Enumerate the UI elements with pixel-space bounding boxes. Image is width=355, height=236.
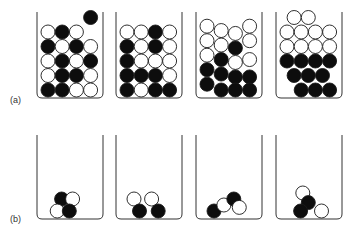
white-ball <box>243 34 257 48</box>
black-ball <box>200 77 214 91</box>
black-ball <box>228 70 242 84</box>
black-ball <box>214 83 228 97</box>
beaker-a-1 <box>37 11 103 99</box>
black-ball <box>294 204 308 218</box>
white-ball <box>120 25 134 39</box>
white-ball <box>200 34 214 48</box>
beaker-a-4 <box>276 11 342 99</box>
black-ball <box>214 67 228 81</box>
white-ball <box>84 40 98 54</box>
beaker-a-3 <box>196 12 262 98</box>
white-ball <box>69 83 83 97</box>
white-ball <box>294 25 308 39</box>
white-ball <box>41 25 55 39</box>
black-ball <box>148 25 162 39</box>
black-ball <box>55 25 69 39</box>
white-ball <box>41 54 55 68</box>
black-ball <box>120 40 134 54</box>
white-ball <box>280 40 294 54</box>
beaker-diagram <box>0 0 355 236</box>
white-ball <box>308 40 322 54</box>
white-ball <box>55 40 69 54</box>
black-ball <box>228 41 242 55</box>
black-ball <box>41 40 55 54</box>
white-ball <box>315 204 329 218</box>
white-ball <box>41 69 55 83</box>
black-ball <box>323 83 337 97</box>
white-ball <box>163 69 177 83</box>
white-ball <box>84 69 98 83</box>
black-ball <box>243 70 257 84</box>
white-ball <box>69 54 83 68</box>
white-ball <box>163 54 177 68</box>
black-ball <box>308 83 322 97</box>
white-ball <box>243 19 257 33</box>
black-ball <box>62 204 76 218</box>
white-ball <box>69 25 83 39</box>
black-ball <box>308 54 322 68</box>
beaker-b-2 <box>116 135 182 219</box>
white-ball <box>84 83 98 97</box>
black-ball <box>55 83 69 97</box>
white-ball <box>323 25 337 39</box>
white-ball <box>134 25 148 39</box>
white-ball <box>163 40 177 54</box>
black-ball <box>69 40 83 54</box>
white-ball <box>228 26 242 40</box>
white-ball <box>280 25 294 39</box>
black-ball <box>55 54 69 68</box>
black-ball <box>280 54 294 68</box>
white-ball <box>232 200 246 214</box>
black-ball <box>148 83 162 97</box>
beaker-a-2 <box>116 12 182 98</box>
black-ball <box>134 69 148 83</box>
black-ball <box>120 54 134 68</box>
white-ball <box>200 19 214 33</box>
white-ball <box>301 11 315 25</box>
white-ball <box>287 11 301 25</box>
black-ball <box>214 53 228 67</box>
beaker-outline <box>116 135 182 219</box>
black-ball <box>163 83 177 97</box>
white-ball <box>308 25 322 39</box>
black-ball <box>120 83 134 97</box>
black-ball <box>69 69 83 83</box>
white-ball <box>243 53 257 67</box>
black-ball <box>294 83 308 97</box>
black-ball <box>294 54 308 68</box>
black-ball <box>287 69 301 83</box>
black-ball <box>228 83 242 97</box>
black-ball <box>120 69 134 83</box>
beaker-b-4 <box>276 135 342 219</box>
white-ball <box>148 54 162 68</box>
black-ball <box>200 63 214 77</box>
white-ball <box>163 25 177 39</box>
black-ball <box>133 204 147 218</box>
white-ball <box>214 38 228 52</box>
black-ball <box>84 54 98 68</box>
black-ball <box>148 69 162 83</box>
white-ball <box>214 24 228 38</box>
black-ball <box>243 83 257 97</box>
white-ball <box>134 54 148 68</box>
white-ball <box>200 48 214 62</box>
black-ball <box>84 11 98 25</box>
black-ball <box>316 69 330 83</box>
white-ball <box>134 83 148 97</box>
white-ball <box>323 40 337 54</box>
black-ball <box>323 54 337 68</box>
white-ball <box>134 40 148 54</box>
black-ball <box>41 83 55 97</box>
black-ball <box>151 204 165 218</box>
beaker-b-3 <box>196 135 262 219</box>
beaker-b-1 <box>37 135 103 219</box>
white-ball <box>294 40 308 54</box>
black-ball <box>55 69 69 83</box>
black-ball <box>301 69 315 83</box>
white-ball <box>228 55 242 69</box>
black-ball <box>148 40 162 54</box>
